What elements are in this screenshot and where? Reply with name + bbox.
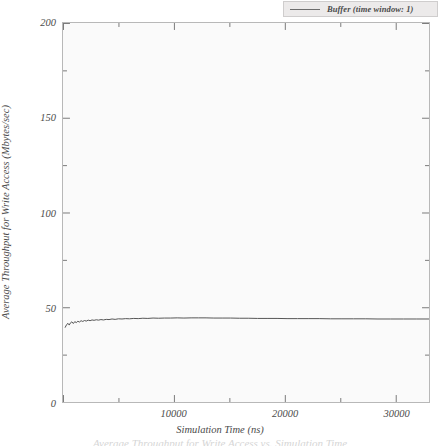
y-tick-label: 150: [18, 112, 56, 123]
y-tick-label: 0: [18, 398, 56, 409]
y-tick-label: 200: [18, 17, 56, 28]
y-axis-title: Average Throughput for Write Access (Mby…: [0, 22, 14, 403]
x-tick-label: 20000: [272, 408, 298, 419]
x-tick-label: 30000: [383, 408, 409, 419]
plot-svg: [63, 23, 429, 402]
plot-area: [62, 22, 430, 403]
chart-figure: Buffer (time window: 1) 050100150200 100…: [0, 0, 440, 446]
x-axis-title: Simulation Time (ns): [0, 424, 440, 435]
x-tick-label: 10000: [160, 408, 186, 419]
y-tick-label: 50: [18, 302, 56, 313]
y-tick-label: 100: [18, 207, 56, 218]
series-line-0: [65, 318, 429, 327]
caption-remnant: Average Throughput for Write Access vs. …: [0, 438, 440, 446]
chart-legend: Buffer (time window: 1): [283, 1, 438, 17]
legend-line-swatch: [290, 9, 320, 10]
legend-item-label: Buffer (time window: 1): [327, 4, 413, 14]
